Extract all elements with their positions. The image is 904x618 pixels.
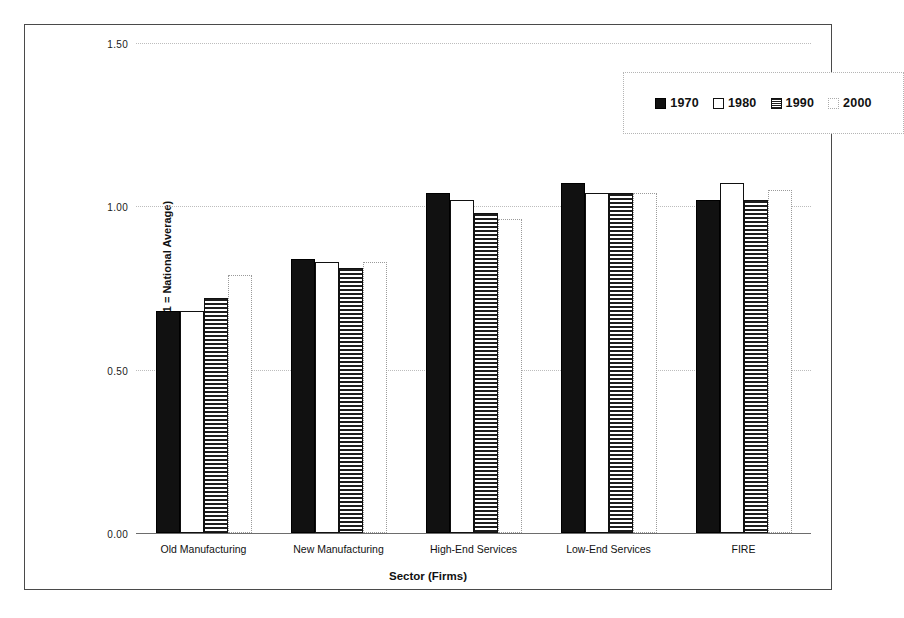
bar-2000 [768,190,792,533]
ytick-label-0-00: 0.00 [107,529,128,540]
chart-legend: 1970198019902000 [623,72,904,134]
x-tick-label: FIRE [732,543,756,555]
legend-item-1980: 1980 [713,96,757,110]
legend-swatch-icon-1980 [713,98,724,109]
bar-1970 [291,259,315,533]
legend-swatch-icon-2000 [828,98,839,109]
ytick-label-1-50: 1.50 [107,39,128,50]
bar-group: Old Manufacturing [136,43,271,533]
bar-group: High-End Services [406,43,541,533]
bar-2000 [633,193,657,533]
bar-1990 [474,213,498,533]
bar-1990 [339,268,363,533]
bar-1990 [204,298,228,533]
legend-item-1990: 1990 [771,96,815,110]
bar-2000 [498,219,522,533]
figure-frame: Location Quotient (1 = National Average)… [24,24,832,590]
plot-area: 1.50 1.00 0.50 0.00 Old ManufacturingNew… [136,43,811,533]
bar-1970 [696,200,720,533]
bar-1970 [561,183,585,533]
legend-item-2000: 2000 [828,96,872,110]
bar-2000 [363,262,387,533]
bar-group: New Manufacturing [271,43,406,533]
bar-1980 [450,200,474,533]
x-tick-label: New Manufacturing [293,543,383,555]
bar-1980 [720,183,744,533]
bar-1990 [609,193,633,533]
bar-1980 [180,311,204,533]
legend-swatch-icon-1970 [655,98,666,109]
legend-label-1990: 1990 [786,96,815,110]
legend-label-1970: 1970 [670,96,699,110]
x-tick-label: Low-End Services [566,543,651,555]
x-tick-label: High-End Services [430,543,517,555]
bar-1970 [156,311,180,533]
bar-1980 [315,262,339,533]
x-axis-title: Sector (Firms) [25,570,831,582]
legend-label-2000: 2000 [843,96,872,110]
ytick-label-1-00: 1.00 [107,202,128,213]
ytick-label-0-50: 0.50 [107,365,128,376]
bar-1970 [426,193,450,533]
legend-swatch-icon-1990 [771,98,782,109]
bar-1990 [744,200,768,533]
bar-1980 [585,193,609,533]
legend-item-1970: 1970 [655,96,699,110]
x-tick-label: Old Manufacturing [161,543,247,555]
legend-label-1980: 1980 [728,96,757,110]
bar-2000 [228,275,252,533]
axis-baseline-0-00: 0.00 [136,533,811,534]
